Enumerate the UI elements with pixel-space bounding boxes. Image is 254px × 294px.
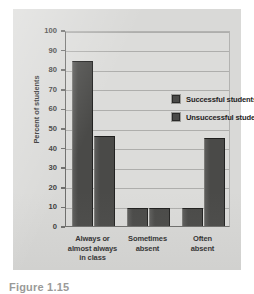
y-axis-tick-label: 90: [13, 46, 57, 55]
bar: [94, 136, 115, 226]
y-axis-tick-label: 80: [13, 65, 57, 74]
y-axis-tick-label: 20: [13, 183, 57, 192]
figure-panel: Percent of students 01020304050607080901…: [13, 9, 241, 270]
x-axis-category-label-line: absent: [169, 244, 236, 254]
legend-label-successful: Successful students: [186, 95, 254, 104]
chart-legend: Successful students Unsuccessful student…: [171, 90, 254, 126]
legend-swatch-unsuccessful: [171, 112, 181, 122]
legend-label-unsuccessful: Unsuccessful students: [186, 113, 254, 122]
y-axis-tick-label: 10: [13, 202, 57, 211]
bar: [182, 208, 203, 226]
y-axis-tick-label: 100: [13, 26, 57, 35]
y-axis-tick-label: 50: [13, 124, 57, 133]
y-axis-tick-label: 40: [13, 144, 57, 153]
legend-item: Unsuccessful students: [171, 108, 254, 126]
y-axis-tick-label: 0: [13, 222, 57, 231]
legend-item: Successful students: [171, 90, 254, 108]
gridline: [66, 32, 229, 33]
y-axis-tick-label: 60: [13, 104, 57, 113]
y-axis-tick-label: 70: [13, 85, 57, 94]
bar: [149, 208, 170, 226]
bar: [204, 138, 225, 226]
legend-swatch-successful: [171, 94, 181, 104]
x-axis-category-label: Oftenabsent: [169, 234, 236, 253]
bar: [72, 61, 93, 226]
gridline: [66, 51, 229, 52]
y-axis-tick-label: 30: [13, 163, 57, 172]
figure-caption: Figure 1.15: [9, 281, 69, 293]
x-axis-category-label-line: Often: [169, 234, 236, 244]
plot-area: Successful students Unsuccessful student…: [65, 31, 230, 227]
bar: [127, 208, 148, 226]
x-axis-category-label-line: in class: [59, 253, 126, 263]
